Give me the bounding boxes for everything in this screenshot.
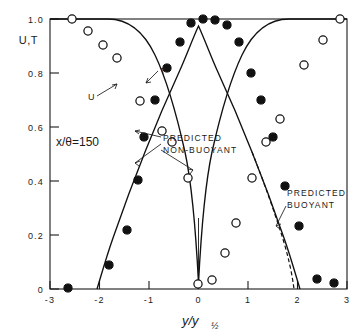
data-point-open xyxy=(113,54,121,62)
data-point-filled xyxy=(295,222,303,230)
data-point-filled xyxy=(151,96,159,104)
data-point-filled xyxy=(269,133,277,141)
y-tick-label-0-4: 0.4 xyxy=(28,177,44,187)
data-point-open xyxy=(300,61,308,69)
x-tick-label-neg1: -1 xyxy=(144,295,154,305)
u-label-leader xyxy=(97,84,117,96)
data-point-filled xyxy=(64,284,72,292)
data-point-open xyxy=(319,36,327,44)
data-point-open xyxy=(99,41,107,49)
data-point-filled xyxy=(330,279,338,287)
data-point-filled xyxy=(123,226,131,234)
data-point-open xyxy=(221,249,229,257)
data-point-open xyxy=(208,276,216,284)
predicted-buoyant-label-line1: PREDICTED xyxy=(287,188,346,198)
x-axis-label: y/y ½ xyxy=(181,313,219,331)
predicted-non-buoyant-label-line2: NON-BUOYANT xyxy=(163,145,237,155)
data-point-filled xyxy=(247,69,255,77)
data-point-filled xyxy=(223,21,231,29)
data-point-open xyxy=(232,219,240,227)
condition-note: x/θ=150 xyxy=(56,135,99,149)
x-tick-label-0: 0 xyxy=(195,295,201,305)
data-point-open xyxy=(194,280,202,288)
velocity-temperature-profile-chart: 1.0 0.8 0.6 0.4 0.2 0 -3 -2 -1 0 1 2 3 U… xyxy=(0,0,361,336)
data-point-filled xyxy=(235,38,243,46)
t-curve-label: T xyxy=(160,66,166,76)
x-axis-label-numerator: y/y xyxy=(181,313,200,328)
y-tick-label-0-2: 0.2 xyxy=(28,231,44,241)
data-point-open xyxy=(262,138,270,146)
data-point-filled xyxy=(199,15,207,23)
predicted-non-buoyant-label-line1: PREDICTED xyxy=(163,133,222,143)
u-curve-label: U xyxy=(88,92,95,102)
data-point-filled xyxy=(211,16,219,24)
y-tick-label-1-0: 1.0 xyxy=(28,15,44,25)
data-point-filled xyxy=(313,275,321,283)
y-tick-label-0: 0 xyxy=(38,285,44,295)
data-point-open xyxy=(276,115,284,123)
data-point-open xyxy=(84,27,92,35)
x-tick-label-2: 2 xyxy=(294,295,300,305)
x-tick-label-neg2: -2 xyxy=(94,295,104,305)
data-point-filled xyxy=(105,261,113,269)
data-point-filled xyxy=(176,38,184,46)
t-label-leader xyxy=(146,71,158,83)
data-point-open xyxy=(68,15,76,23)
predicted-buoyant-curve xyxy=(252,152,294,289)
data-point-open xyxy=(184,174,192,182)
data-point-open xyxy=(248,174,256,182)
data-point-filled xyxy=(187,19,195,27)
x-tick-label-3: 3 xyxy=(344,295,350,305)
y-tick-label-0-8: 0.8 xyxy=(28,69,44,79)
data-point-filled xyxy=(134,176,142,184)
data-point-open xyxy=(336,15,344,23)
data-point-open xyxy=(136,97,144,105)
predicted-buoyant-label-line2: BUOYANT xyxy=(287,200,335,210)
data-point-filled xyxy=(257,96,265,104)
y-axis-label: U,T xyxy=(19,34,38,46)
x-axis-label-subscript: ½ xyxy=(211,321,219,331)
x-tick-label-neg3: -3 xyxy=(45,295,55,305)
figure-container: 1.0 0.8 0.6 0.4 0.2 0 -3 -2 -1 0 1 2 3 U… xyxy=(0,0,361,336)
y-axis-ticks xyxy=(50,19,59,289)
x-tick-label-1: 1 xyxy=(245,295,251,305)
y-tick-label-0-6: 0.6 xyxy=(28,123,44,133)
